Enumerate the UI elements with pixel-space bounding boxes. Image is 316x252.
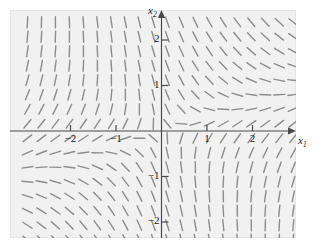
- field-segment: [111, 89, 112, 100]
- field-segment: [36, 181, 47, 183]
- field-segment: [278, 191, 280, 202]
- field-segment: [262, 18, 270, 26]
- x-tick-label-0: −2: [62, 132, 80, 144]
- field-segment: [123, 220, 128, 230]
- direction-field-figure: x2 x1 −2−11221−1−2: [0, 0, 316, 252]
- field-segment: [93, 135, 102, 141]
- field-segment: [25, 90, 29, 100]
- field-segment: [237, 234, 238, 238]
- field-segment: [260, 63, 270, 68]
- field-segment: [83, 17, 84, 28]
- field-segment: [222, 148, 225, 158]
- field-segment: [122, 163, 130, 171]
- field-segment: [288, 107, 296, 111]
- field-segment: [25, 104, 30, 114]
- field-segment: [250, 162, 253, 173]
- field-segment: [83, 60, 84, 71]
- field-segment: [67, 104, 71, 114]
- field-segment: [164, 120, 171, 128]
- field-segment: [235, 148, 239, 158]
- field-segment: [233, 77, 242, 83]
- field-segment: [24, 119, 31, 128]
- field-segment: [166, 206, 169, 217]
- field-segment: [64, 180, 74, 184]
- field-segment: [23, 236, 32, 238]
- field-segment: [165, 104, 170, 114]
- field-segment: [219, 121, 229, 127]
- field-segment: [232, 93, 243, 96]
- field-segment: [27, 31, 28, 42]
- field-segment: [66, 236, 73, 238]
- field-segment: [206, 76, 214, 84]
- field-segment: [137, 191, 142, 201]
- field-segment: [78, 166, 89, 169]
- field-segment: [220, 18, 226, 27]
- field-segment: [236, 162, 238, 173]
- field-segment: [166, 191, 169, 202]
- field-segment: [195, 176, 196, 187]
- x-tick-label-1: −1: [107, 132, 125, 144]
- field-segment: [233, 121, 242, 127]
- field-segment: [291, 162, 295, 172]
- field-segment: [293, 220, 294, 231]
- field-segment: [152, 60, 155, 71]
- field-segment: [249, 148, 253, 158]
- field-segment: [180, 176, 182, 187]
- field-segment: [138, 17, 141, 28]
- field-segment: [97, 17, 98, 28]
- field-segment: [275, 48, 284, 54]
- field-segment: [52, 236, 60, 238]
- field-segment: [80, 119, 86, 128]
- field-segment: [289, 19, 296, 26]
- field-segment: [180, 191, 182, 202]
- field-segment: [125, 60, 126, 71]
- field-segment: [109, 235, 114, 238]
- field-segment: [83, 31, 84, 42]
- field-segment: [22, 195, 33, 198]
- field-segment: [193, 32, 198, 42]
- field-segment: [223, 234, 224, 238]
- y-axis-label: x2: [148, 4, 157, 19]
- field-segment: [274, 79, 285, 81]
- field-segment: [237, 220, 238, 231]
- field-segment: [260, 108, 271, 111]
- field-segment: [151, 148, 156, 158]
- field-segment: [279, 220, 280, 231]
- field-segment: [123, 119, 128, 129]
- field-segment: [55, 60, 56, 71]
- field-segment: [122, 177, 129, 186]
- field-segment: [291, 148, 296, 158]
- field-segment: [36, 194, 46, 198]
- field-segment: [124, 17, 126, 28]
- field-segment: [179, 61, 184, 71]
- field-segment: [265, 205, 266, 216]
- field-segment: [205, 92, 214, 98]
- field-segment: [37, 208, 46, 214]
- field-segment: [181, 162, 182, 173]
- field-segment: [279, 205, 280, 216]
- field-segment: [275, 120, 284, 127]
- field-segment: [37, 222, 46, 229]
- field-segment: [97, 31, 98, 42]
- field-segment: [166, 235, 169, 238]
- field-segment: [39, 104, 44, 114]
- field-segment: [195, 191, 197, 202]
- field-segment: [288, 64, 296, 67]
- field-segment: [80, 235, 87, 238]
- field-segment: [237, 176, 238, 187]
- field-segment: [178, 90, 184, 99]
- field-segment: [97, 89, 99, 100]
- field-segment: [79, 193, 88, 200]
- field-segment: [166, 176, 169, 187]
- x-tick-label-2: 1: [198, 132, 216, 144]
- field-segment: [65, 193, 74, 199]
- field-segment: [218, 92, 228, 97]
- field-segment: [251, 234, 252, 238]
- field-segment: [166, 147, 168, 158]
- field-segment: [51, 222, 59, 229]
- field-segment: [137, 235, 141, 238]
- field-segment: [94, 119, 100, 128]
- field-segment: [204, 121, 214, 126]
- field-segment: [194, 205, 196, 216]
- field-segment: [275, 19, 283, 26]
